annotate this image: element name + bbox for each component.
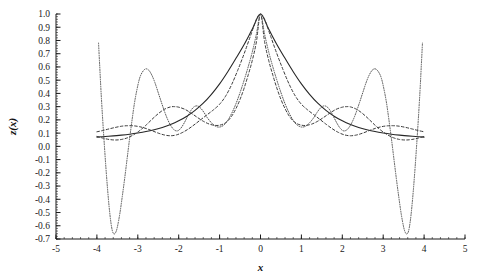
x-tick-label: 0 (258, 244, 263, 254)
series-dashed-curve (97, 14, 424, 136)
x-tick-label: 5 (463, 244, 468, 254)
x-tick-label: 1 (299, 244, 304, 254)
y-tick-label: 0.4 (38, 89, 50, 99)
y-tick-label: 0.2 (38, 115, 50, 125)
y-tick-label: 0.9 (38, 23, 50, 33)
y-tick-label: -0.6 (35, 221, 50, 231)
y-tick-label: 0.3 (38, 102, 50, 112)
x-tick-label: 3 (381, 244, 386, 254)
x-tick-label: -5 (52, 244, 60, 254)
y-tick-label: 0.0 (38, 142, 50, 152)
y-axis-title: z(x) (6, 118, 19, 136)
x-tick-label: -4 (93, 244, 101, 254)
y-tick-label: -0.2 (35, 168, 50, 178)
y-tick-label: -0.4 (35, 195, 50, 205)
x-axis-title: x (257, 261, 264, 273)
x-tick-label: 4 (422, 244, 427, 254)
y-tick-label: 0.7 (38, 49, 50, 59)
chart-svg: -5-4-3-2-10123451.00.90.80.70.60.50.40.3… (0, 0, 481, 279)
chart-figure: -5-4-3-2-10123451.00.90.80.70.60.50.40.3… (0, 0, 481, 279)
y-tick-label: 1.0 (38, 9, 50, 19)
y-tick-label: -0.5 (35, 208, 50, 218)
series-dashed-hump-curve (97, 14, 424, 140)
y-tick-label: -0.1 (35, 155, 50, 165)
y-tick-label: 0.6 (38, 62, 50, 72)
x-tick-label: 2 (340, 244, 345, 254)
y-tick-label: -0.7 (35, 234, 50, 244)
x-tick-label: -2 (175, 244, 183, 254)
x-tick-label: -1 (216, 244, 224, 254)
x-tick-label: -3 (134, 244, 142, 254)
y-tick-label: 0.8 (38, 36, 50, 46)
y-tick-label: 0.5 (38, 76, 50, 86)
series-solid-curve (97, 14, 424, 137)
y-tick-label: -0.3 (35, 181, 50, 191)
y-tick-label: 0.1 (38, 129, 50, 139)
